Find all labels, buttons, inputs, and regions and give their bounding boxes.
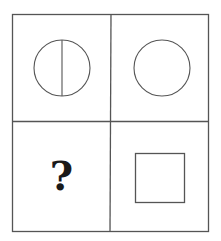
cell-bottom-right: [136, 154, 185, 203]
circle-shape: [134, 40, 190, 96]
cell-top-left: [34, 40, 90, 96]
cell-top-right: [134, 40, 190, 96]
square-shape: [136, 154, 185, 203]
cell-bottom-left-question-mark: ?: [12, 121, 111, 231]
